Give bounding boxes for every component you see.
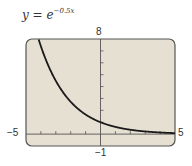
y-max-label: 8 xyxy=(96,26,102,37)
x-max-label: 5 xyxy=(178,127,184,138)
graph-screen xyxy=(0,0,192,166)
x-min-label: −5 xyxy=(7,127,18,138)
y-min-label: −1 xyxy=(95,147,106,158)
